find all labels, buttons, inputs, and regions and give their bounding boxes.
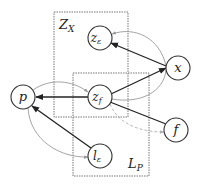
node-x-label: x [174,60,182,75]
node-f: f [164,118,188,142]
plate-zx-label: ZX [58,17,75,34]
edge-zf-to-f-dashed [110,104,164,132]
edge-x-to-zf-curved [112,70,166,100]
edge-p-to-zf-curved [33,82,88,92]
node-x: x [166,56,190,80]
edge-p-to-le-curved [28,108,88,157]
node-p: p [11,85,35,109]
edge-le-to-p [32,106,91,148]
edge-zf-to-x [111,68,166,94]
node-p-label: p [19,89,28,104]
graphical-model-diagram: ZX LP p zε zf x f lε [0,0,201,190]
plate-lp-label: LP [127,156,144,173]
edge-x-to-ze-curved [112,32,166,66]
node-l-epsilon: lε [88,144,112,168]
node-z-f: zf [88,85,112,109]
node-z-epsilon: zε [88,26,112,50]
edge-zf-to-f [110,102,166,124]
